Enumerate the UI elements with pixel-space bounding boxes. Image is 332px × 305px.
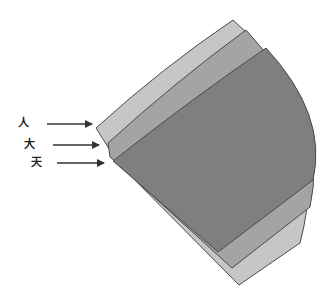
label-tian: 天 [31, 157, 42, 169]
layered-sector-diagram [0, 0, 332, 305]
label-ren: 人 [18, 118, 29, 130]
label-da: 大 [24, 139, 35, 151]
